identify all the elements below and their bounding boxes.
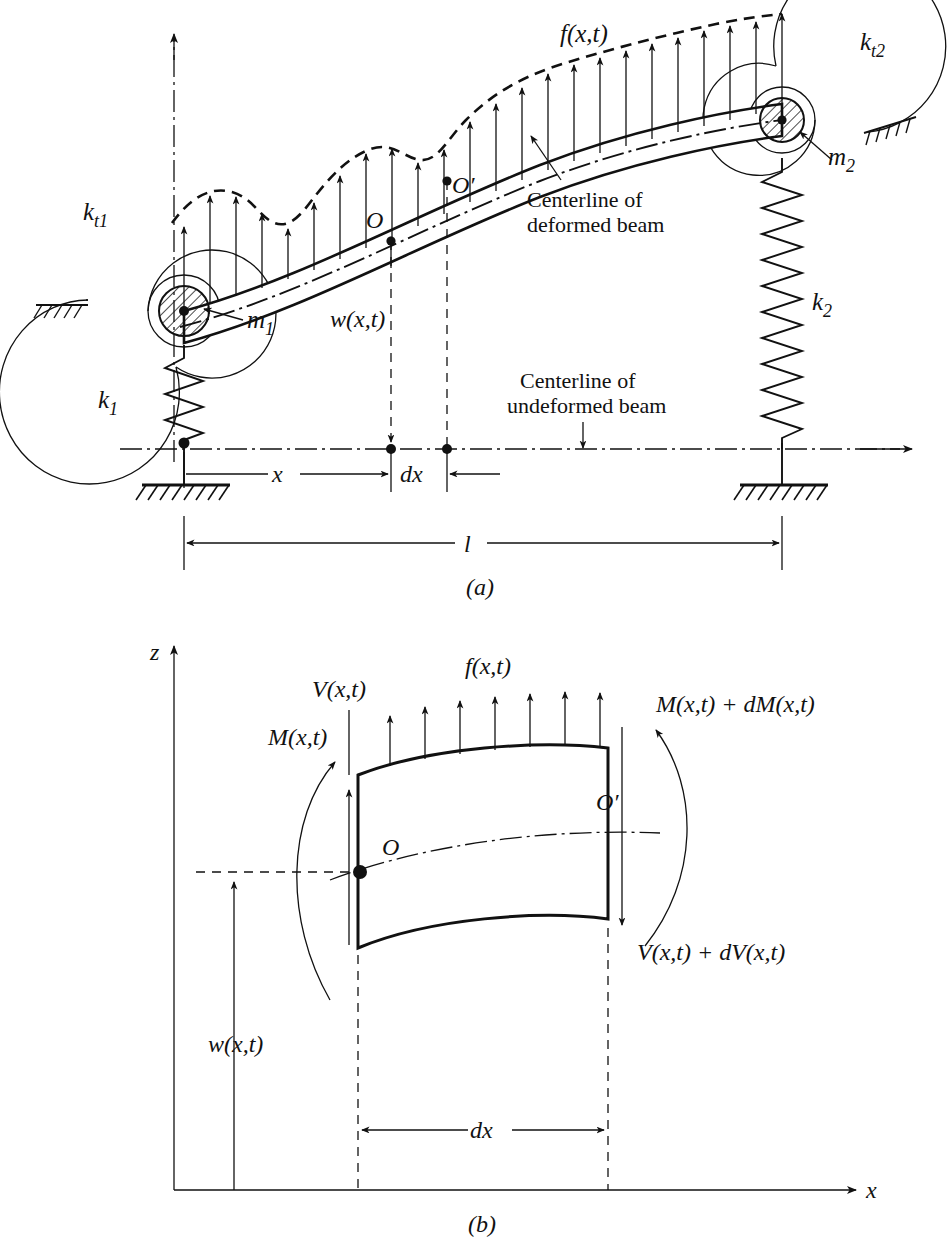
- point-o-prime-label-panel-a: O′: [452, 172, 475, 198]
- dimension-l-label: l: [464, 531, 471, 557]
- element-centerline: [330, 832, 660, 880]
- load-arrows-panel-a: [184, 14, 782, 310]
- deformed-beam: [184, 104, 782, 343]
- ground-support-right: [734, 443, 828, 500]
- ground-hatch-kt2: [864, 117, 916, 145]
- deflection-label-panel-a: w(x,t): [330, 306, 385, 332]
- load-arrows-panel-b: [390, 692, 600, 766]
- dimension-dx-panel-b: dx: [358, 928, 608, 1190]
- moment-right-arc: [645, 730, 687, 946]
- moment-right-label: M(x,t) + dM(x,t): [655, 691, 815, 717]
- ground-hatch-kt1: [34, 305, 88, 318]
- panel-a: k1 k2 kt1: [0, 0, 946, 600]
- deflection-label-panel-b: w(x,t): [208, 1031, 263, 1057]
- spring-k1: [165, 345, 203, 449]
- panel-b-caption: (b): [468, 1211, 496, 1237]
- ground-support-left: [136, 443, 230, 500]
- point-o-marker-panel-b: [353, 865, 367, 879]
- shear-left-label: V(x,t): [312, 676, 366, 702]
- torsional-spring-kt2: [703, 0, 946, 175]
- point-o-marker-panel-a: [386, 236, 396, 454]
- deformed-centerline-note-line1: Centerline of: [527, 187, 643, 212]
- panel-b: z x O O′: [149, 639, 877, 1237]
- load-label-panel-a: f(x,t): [560, 20, 608, 48]
- moment-left-label: M(x,t): [267, 724, 327, 750]
- point-o-label-panel-a: O: [366, 207, 383, 233]
- figure-canvas: k1 k2 kt1: [0, 0, 947, 1244]
- dimension-x-label: x: [271, 461, 283, 487]
- moment-left-arc: [297, 762, 335, 1000]
- dimension-dx-label-panel-b: dx: [470, 1117, 493, 1143]
- dimension-dx-label-panel-a: dx: [400, 461, 423, 487]
- z-axis-label-panel-b: z: [149, 639, 160, 665]
- point-o-prime-label-panel-b: O′: [596, 789, 619, 815]
- spring-k2: [762, 158, 802, 449]
- load-label-panel-b: f(x,t): [465, 653, 511, 679]
- dimension-l: l: [184, 516, 782, 570]
- x-axis-label-panel-b: x: [865, 1177, 877, 1203]
- undeformed-centerline-note-line2: undeformed beam: [507, 393, 666, 418]
- torsional-spring-kt1-label: kt1: [83, 198, 108, 231]
- spring-k1-label: k1: [98, 386, 118, 419]
- mass-m2-label: m2: [828, 143, 855, 176]
- point-o-label-panel-b: O: [382, 834, 399, 860]
- engineering-diagram: k1 k2 kt1: [0, 0, 947, 1244]
- shear-right-label: V(x,t) + dV(x,t): [637, 939, 785, 965]
- dimension-dx-panel-a: dx: [400, 461, 500, 487]
- deformed-centerline-note-line2: deformed beam: [527, 212, 664, 237]
- torsional-spring-kt2-label: kt2: [860, 28, 885, 61]
- undeformed-centerline-note-line1: Centerline of: [520, 368, 636, 393]
- panel-a-caption: (a): [466, 574, 494, 600]
- spring-k2-label: k2: [812, 288, 832, 321]
